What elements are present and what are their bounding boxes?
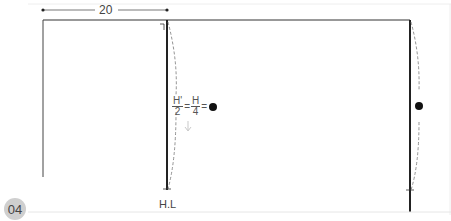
fraction-h-over-4: H 4 <box>191 96 200 117</box>
center-dashed-curve-bottom <box>168 112 176 189</box>
right-marker-dot <box>415 102 423 110</box>
right-dashed-curve-bottom <box>411 122 419 190</box>
right-angle-marker <box>160 24 164 30</box>
fraction-h-prime-over-2: H' 2 <box>172 96 183 117</box>
center-dashed-curve-top <box>168 22 176 95</box>
step-badge: 04 <box>4 198 26 220</box>
dimension-endpoint-left <box>41 8 44 11</box>
hem-line-label: H.L <box>159 199 176 210</box>
dimension-endpoint-right <box>165 8 168 11</box>
right-dashed-curve-top <box>411 22 419 90</box>
formula: H' 2 = H 4 = <box>172 96 217 117</box>
center-marker-dot <box>209 103 217 111</box>
pattern-diagram <box>0 0 451 221</box>
dimension-label: 20 <box>99 4 112 16</box>
